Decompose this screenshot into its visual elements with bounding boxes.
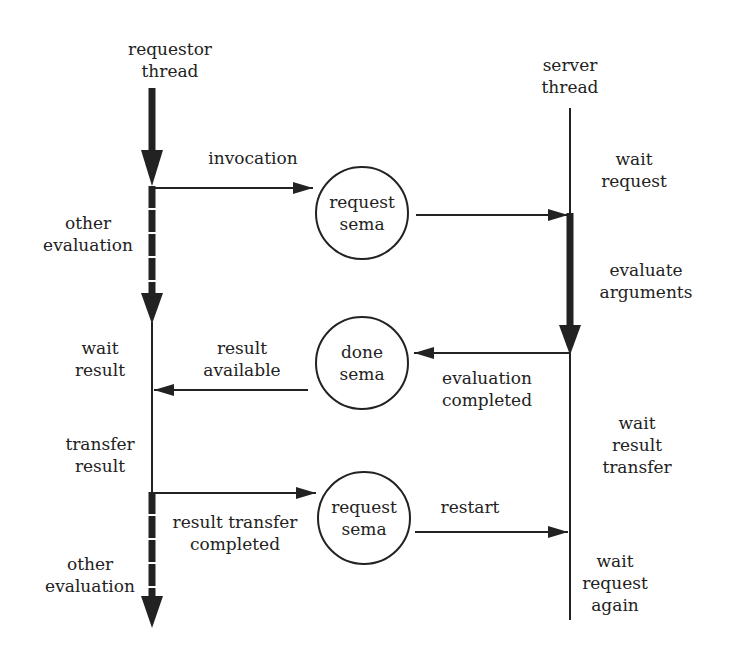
requestor-state-transfer-result: transfer result: [65, 433, 134, 477]
arrow-down-icon: [141, 150, 163, 186]
server-thread-line: [559, 108, 581, 620]
server-state-wait-result-transfer: wait result transfer: [602, 412, 671, 478]
message-invocation-label: invocation: [208, 147, 297, 169]
requestor-state-wait-result: wait result: [75, 337, 125, 381]
arrow-down-icon: [559, 325, 581, 355]
requestor-thread-title: requestor thread: [128, 38, 212, 82]
requestor-state-other-evaluation-1: other evaluation: [43, 212, 133, 256]
message-evaluation-completed-label: evaluation completed: [442, 367, 532, 411]
requestor-thread-line: [141, 88, 163, 628]
requestor-state-other-evaluation-2: other evaluation: [45, 553, 135, 597]
server-state-wait-request: wait request: [601, 148, 667, 192]
message-result-available-label: result available: [203, 337, 280, 381]
done-sema-label: done sema: [339, 341, 384, 385]
server-state-evaluate-arguments: evaluate arguments: [600, 259, 693, 303]
request-sema-2-label: request sema: [331, 496, 397, 540]
arrow-down-icon: [141, 596, 163, 628]
request-sema-1-label: request sema: [329, 191, 395, 235]
message-result-transfer-completed-label: result transfer completed: [173, 511, 298, 555]
arrow-down-icon: [141, 293, 163, 324]
server-thread-title: server thread: [542, 54, 599, 98]
server-state-wait-request-again: wait request again: [582, 550, 648, 616]
message-restart-label: restart: [441, 496, 500, 518]
